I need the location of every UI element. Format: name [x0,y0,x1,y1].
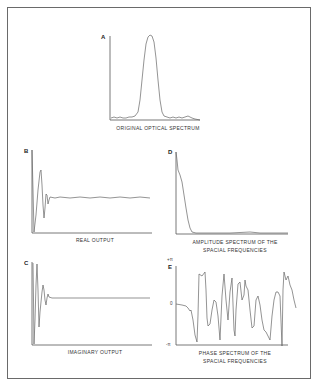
panel-d-curve [176,152,288,233]
panel-e-caption-line2: SPACIAL FREQUENCIES [180,357,290,366]
panel-a-curve [111,35,200,120]
panel-b-caption: REAL OUTPUT [40,236,150,245]
panel-b-curve [32,150,150,232]
panel-a-letter: A [101,34,105,40]
panel-d-letter: D [168,149,172,155]
panel-d-axes [176,152,288,234]
panel-b-axes [32,150,152,233]
panel-e-tick-bottom: -π [166,342,171,347]
panel-e-tick-top: +π [167,257,173,262]
panel-c-curve [33,263,150,344]
panel-d-caption-line2: SPACIAL FREQUENCIES [180,246,290,255]
figure-plots [0,0,318,384]
panel-b-letter: B [24,148,28,154]
panel-a-caption: ORIGINAL OPTICAL SPECTRUM [110,124,206,133]
panel-c-caption: IMAGINARY OUTPUT [40,348,150,357]
panel-c-letter: C [24,260,28,266]
panel-c-axes [32,262,152,345]
panel-e-curve [176,272,296,346]
panel-e-tick-zero: 0 [170,301,173,306]
panel-e-letter: E [168,264,172,270]
